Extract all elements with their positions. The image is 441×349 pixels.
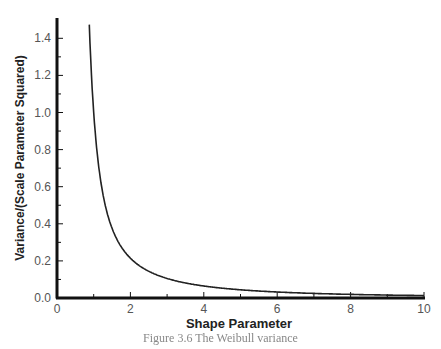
chart-svg: 0.00.20.40.60.81.01.21.4 0246810 Shape P… <box>0 0 441 349</box>
y-tick-label: 0.2 <box>34 254 51 268</box>
x-tick-label: 6 <box>274 302 281 316</box>
x-tick-label: 0 <box>54 302 61 316</box>
chart-figure: 0.00.20.40.60.81.01.21.4 0246810 Shape P… <box>0 0 441 349</box>
y-tick-label: 0.4 <box>34 217 51 231</box>
y-tick-label: 1.4 <box>34 31 51 45</box>
weibull-variance-curve <box>89 25 424 296</box>
x-tick-label: 2 <box>127 302 134 316</box>
y-axis-label: Variance/(Scale Parameter Squared) <box>13 55 27 260</box>
y-tick-label: 0.0 <box>34 291 51 305</box>
y-tick-label: 1.0 <box>34 106 51 120</box>
y-tick-label: 1.2 <box>34 68 51 82</box>
y-axis-ticks: 0.00.20.40.60.81.01.21.4 <box>34 31 63 305</box>
figure-caption: Figure 3.6 The Weibull variance <box>0 331 441 346</box>
y-tick-label: 0.8 <box>34 143 51 157</box>
x-tick-label: 10 <box>417 302 431 316</box>
x-tick-label: 4 <box>200 302 207 316</box>
x-axis-label: Shape Parameter <box>186 316 292 331</box>
y-tick-label: 0.6 <box>34 180 51 194</box>
x-tick-label: 8 <box>347 302 354 316</box>
